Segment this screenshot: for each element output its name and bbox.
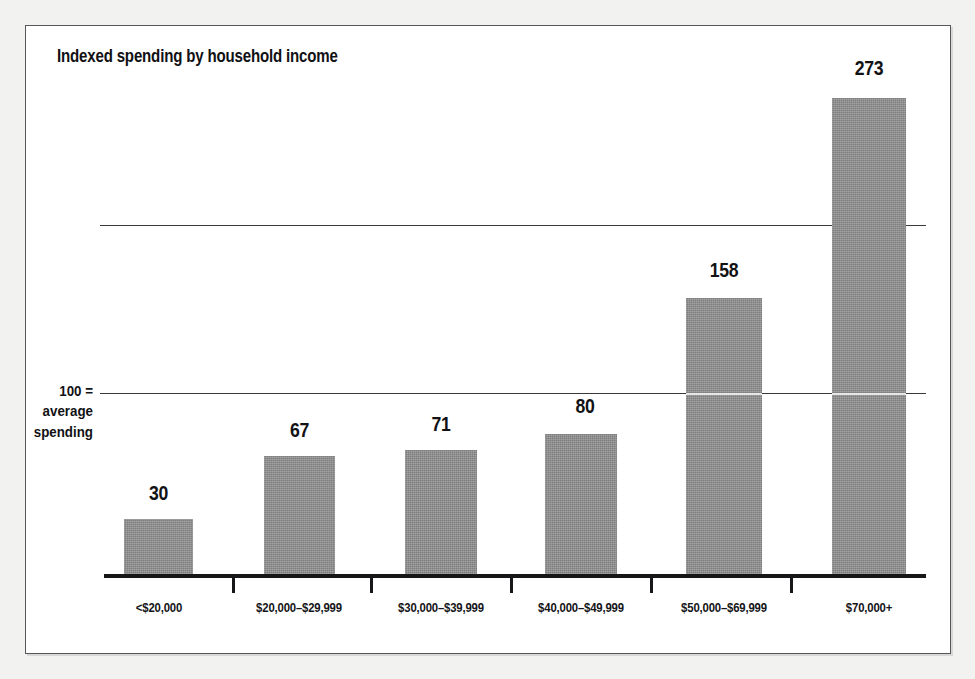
average-note-line-3: spending [0,422,93,442]
x-label-2: $30,000–$39,999 [391,600,492,615]
bar-value-5: 273 [838,56,900,80]
bar-value-1: 67 [270,418,330,442]
chart-page: Indexed spending by household income 100… [0,0,975,679]
axis-tick-4 [650,578,653,593]
bar-2[interactable] [405,450,477,574]
axis-tick-5 [790,578,793,593]
x-label-3: $40,000–$49,999 [531,600,632,615]
axis-tick-3 [510,578,513,593]
average-note-line-1: 100 = [0,381,93,401]
x-label-1: $20,000–$29,999 [249,600,350,615]
gridline-200 [100,225,926,226]
average-spending-note: 100 = average spending [0,381,93,442]
bar-3[interactable] [545,434,617,574]
bar-0[interactable] [124,519,193,574]
axis-tick-2 [370,578,373,593]
bar-4[interactable] [686,298,762,574]
gridline-100 [100,393,926,394]
bar-1[interactable] [264,456,335,574]
gridline-100-over-bar-5 [832,393,906,395]
axis-tick-1 [232,578,235,593]
average-note-line-2: average [0,401,93,421]
bar-value-0: 30 [130,481,188,505]
bar-value-3: 80 [551,394,618,418]
bar-5[interactable] [832,98,906,574]
x-label-0: <$20,000 [109,600,210,615]
x-label-5: $70,000+ [819,600,920,615]
x-axis-baseline [104,574,926,578]
x-label-4: $50,000–$69,999 [674,600,775,615]
chart-frame: Indexed spending by household income 100… [25,25,951,654]
plot-area: 100 = average spending 30 67 71 80 158 [26,26,950,653]
bar-value-2: 71 [411,412,471,436]
bar-value-4: 158 [692,258,756,282]
gridline-100-over-bar-4 [686,393,762,395]
